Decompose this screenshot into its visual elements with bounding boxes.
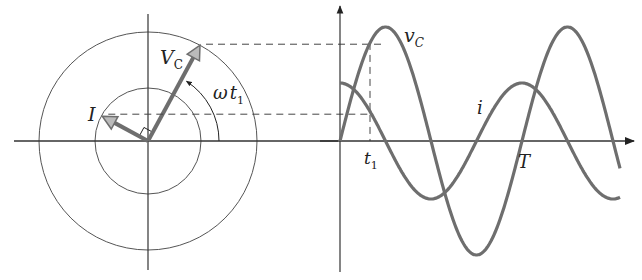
vc-phasor-label: VC [160, 46, 183, 72]
i-phasor-arrow [115, 123, 148, 141]
phasor-waveform-figure: VC I ωt1 vC i t1 T [0, 0, 642, 280]
period-T-label: T [518, 151, 532, 172]
phasor-diagram: VC I ωt1 [14, 14, 338, 270]
i-phasor-label: I [87, 103, 96, 125]
vc-waveform-label: vC [404, 24, 424, 50]
waveform-plot: vC i t1 T [320, 6, 634, 272]
t1-tick-label: t1 [364, 148, 378, 172]
i-waveform-label: i [477, 97, 483, 118]
i-arrowhead-icon [102, 116, 118, 129]
vc-phasor-arrow [148, 58, 193, 141]
omega-t1-label: ωt1 [213, 82, 244, 107]
vc-arrowhead-icon [187, 45, 200, 61]
